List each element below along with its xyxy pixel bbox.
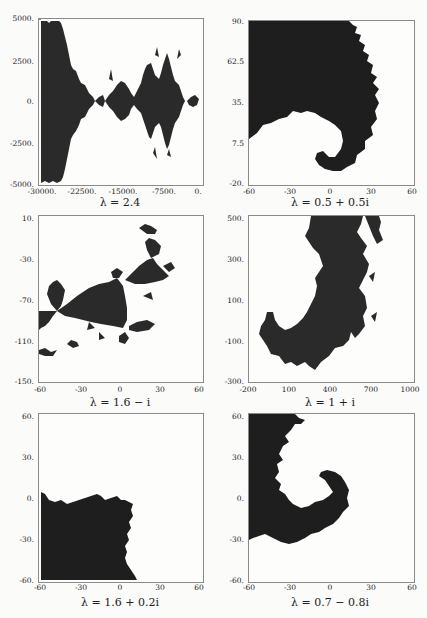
y-tick-label: 0. <box>0 98 34 106</box>
x-tick-label: -30000. <box>22 188 62 196</box>
x-tick-label: -60 <box>20 386 60 394</box>
x-tick-label: -30 <box>61 584 101 592</box>
x-tick-label: -30 <box>61 386 101 394</box>
x-tick-label: -15000. <box>103 188 143 196</box>
y-tick-label: -300. <box>204 378 244 386</box>
y-tick-label: 35. <box>204 99 244 107</box>
y-tick-label: 5000. <box>0 15 34 23</box>
y-tick-label: 100. <box>204 297 244 305</box>
y-tick-label: -100. <box>204 338 244 346</box>
x-tick-label: 0 <box>310 584 350 592</box>
fractal-plot <box>249 414 414 582</box>
y-tick-label: 2500. <box>0 58 34 66</box>
y-tick-label: 10. <box>0 215 34 223</box>
fractal-plot <box>249 21 414 185</box>
x-tick-label: 0 <box>310 188 350 196</box>
x-tick-label: -22500. <box>62 188 102 196</box>
x-tick-label: -30 <box>270 584 310 592</box>
x-tick-label: 0. <box>178 188 218 196</box>
y-tick-label: -30. <box>0 256 34 264</box>
panel-caption: λ = 2.4 <box>20 196 220 209</box>
x-tick-label: 700 <box>351 386 391 394</box>
x-tick-label: 1000 <box>390 386 427 394</box>
x-tick-label: 60 <box>179 386 219 394</box>
x-tick-label: 30 <box>351 584 391 592</box>
y-tick-label: 500. <box>204 215 244 223</box>
x-tick-label: -60 <box>229 584 269 592</box>
y-tick-label: -70. <box>0 297 34 305</box>
y-tick-label: 90. <box>204 18 244 26</box>
y-tick-label: 60. <box>0 413 34 421</box>
y-tick <box>38 19 41 20</box>
y-tick-label: 0. <box>0 495 34 503</box>
x-tick-label: 30 <box>351 188 391 196</box>
fractal-plot <box>39 414 203 582</box>
x-tick-label: 60 <box>179 584 219 592</box>
plot-area <box>38 215 204 383</box>
x-tick-label: 60 <box>392 584 427 592</box>
x-tick-label: 60 <box>392 188 427 196</box>
y-tick-label: -30. <box>204 536 244 544</box>
x-tick-label: 30 <box>140 386 180 394</box>
y-tick-label: 300. <box>204 256 244 264</box>
y-tick-label: 7.5 <box>204 140 244 148</box>
fractal-plot <box>249 216 414 382</box>
y-tick-label: 0. <box>204 495 244 503</box>
x-tick-label: -60 <box>229 188 269 196</box>
y-tick-label: 30. <box>204 454 244 462</box>
x-tick-label: -60 <box>20 584 60 592</box>
plot-area <box>248 215 415 383</box>
x-tick-label: 400 <box>310 386 350 394</box>
x-tick-label: 100 <box>269 386 309 394</box>
panel-caption: λ = 1.6 + 0.2i <box>20 596 220 609</box>
x-tick-label: 0 <box>100 386 140 394</box>
y-tick-label: -20. <box>204 180 244 188</box>
panel-caption: λ = 0.7 − 0.8i <box>230 596 427 609</box>
fractal-plot <box>39 216 203 382</box>
plot-area <box>38 413 204 583</box>
y-tick-label: 60. <box>204 413 244 421</box>
y-tick-label: -30. <box>0 536 34 544</box>
panel-caption: λ = 0.5 + 0.5i <box>230 196 427 209</box>
x-tick-label: -30 <box>270 188 310 196</box>
plot-area <box>248 413 415 583</box>
plot-area <box>248 20 415 186</box>
x-tick-label: 30 <box>140 584 180 592</box>
panel-caption: λ = 1.6 − i <box>20 396 220 409</box>
panel-caption: λ = 1 + i <box>230 396 427 409</box>
y-tick-label: -110. <box>0 338 34 346</box>
y-tick-label: 30. <box>0 454 34 462</box>
y-tick-label: 62.5 <box>204 58 244 66</box>
y-tick-label: -150. <box>0 378 34 386</box>
fractal-plot <box>39 19 203 185</box>
x-tick-label: 0 <box>100 584 140 592</box>
y-tick-label: -2500. <box>0 140 34 148</box>
x-tick-label: -200 <box>228 386 268 394</box>
plot-area <box>38 18 204 186</box>
